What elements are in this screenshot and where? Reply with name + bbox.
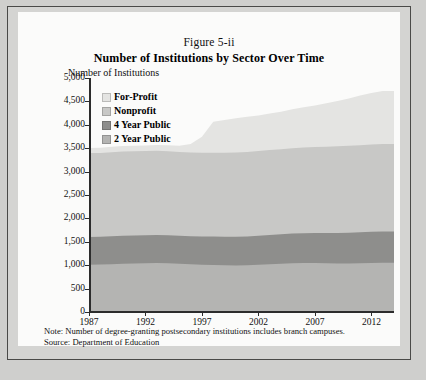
legend-item[interactable]: For-Profit [102,91,171,103]
legend-swatch-icon [102,93,111,102]
y-tick-mark [85,172,89,173]
y-tick-mark [85,148,89,149]
legend-item-label: For-Profit [114,91,157,103]
legend-swatch-icon [102,121,111,130]
chart-legend: For-ProfitNonprofit4 Year Public2 Year P… [102,91,171,147]
y-tick-mark [85,195,89,196]
legend-item-label: 2 Year Public [114,133,171,145]
y-tick-mark [85,125,89,126]
y-tick-mark [85,265,89,266]
note-text: Note: Number of degree-granting postseco… [44,326,394,337]
y-tick-mark [85,242,89,243]
y-tick-label: 5,000 [25,72,85,82]
legend-item[interactable]: 4 Year Public [102,119,171,131]
y-tick-label: 4,500 [25,95,85,105]
x-axis-line [89,311,394,313]
y-tick-mark [85,289,89,290]
y-axis-line [89,78,91,312]
x-tick-mark [202,312,203,316]
figure-number: Figure 5-ii [18,36,400,48]
figure-frame: Figure 5-ii Number of Institutions by Se… [7,6,411,360]
y-tick-label: 3,500 [25,142,85,152]
y-tick-label: 1,000 [25,259,85,269]
legend-item-label: 4 Year Public [114,119,171,131]
y-tick-label: 2,000 [25,212,85,222]
source-text: Source: Department of Education [44,337,394,348]
legend-swatch-icon [102,135,111,144]
legend-item-label: Nonprofit [114,105,156,117]
x-tick-mark [315,312,316,316]
x-tick-mark [145,312,146,316]
y-tick-label: 3,000 [25,166,85,176]
y-tick-label: 500 [25,283,85,293]
area-series-2-year-public [89,263,394,312]
figure-panel: Figure 5-ii Number of Institutions by Se… [18,12,400,346]
x-tick-mark [89,312,90,316]
chart-plot: 05001,0001,5002,0002,5003,0003,5004,0004… [89,78,394,312]
figure-title: Number of Institutions by Sector Over Ti… [18,51,400,66]
x-tick-mark [258,312,259,316]
y-tick-label: 1,500 [25,236,85,246]
y-tick-label: 0 [25,306,85,316]
legend-item[interactable]: 2 Year Public [102,133,171,145]
y-tick-label: 2,500 [25,189,85,199]
footnotes: Note: Number of degree-granting postseco… [44,326,394,348]
legend-item[interactable]: Nonprofit [102,105,171,117]
y-tick-mark [85,101,89,102]
y-tick-mark [85,78,89,79]
y-tick-label: 4,000 [25,119,85,129]
legend-swatch-icon [102,107,111,116]
y-tick-mark [85,218,89,219]
x-tick-mark [371,312,372,316]
